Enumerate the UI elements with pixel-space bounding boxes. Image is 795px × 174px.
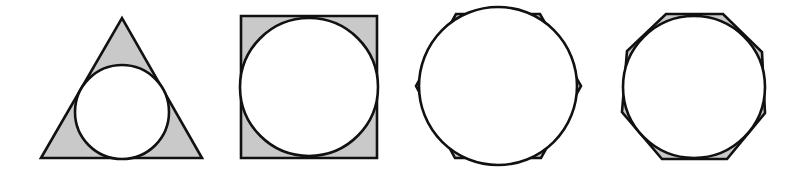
hexagon-inscribed-circle — [419, 7, 577, 165]
square-inscribed-circle — [240, 18, 378, 156]
octagon-group — [622, 14, 765, 159]
hexagon-group — [416, 7, 581, 165]
inscribed-circles-diagram — [0, 0, 795, 174]
triangle-inscribed-circle — [75, 65, 169, 159]
octagon-inscribed-circle — [623, 16, 765, 158]
triangle-group — [41, 18, 202, 159]
square-group — [240, 16, 378, 158]
